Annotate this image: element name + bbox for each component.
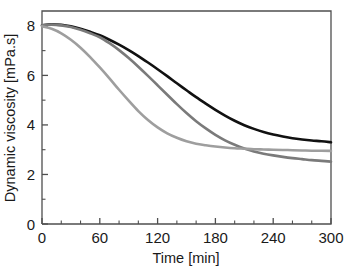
y-tick-label: 8 <box>27 17 35 34</box>
x-axis-title: Time [min] <box>152 250 219 266</box>
y-tick-label: 2 <box>27 166 35 183</box>
y-tick-label: 0 <box>27 216 35 233</box>
x-tick-label: 180 <box>203 229 228 246</box>
dynamic-viscosity-line-chart: 060120180240300 02468 Time [min] Dynamic… <box>0 0 348 273</box>
y-tick-label: 4 <box>27 116 35 133</box>
y-tick-label: 6 <box>27 67 35 84</box>
x-tick-label: 240 <box>261 229 286 246</box>
chart-figure: 060120180240300 02468 Time [min] Dynamic… <box>0 0 348 273</box>
x-tick-label: 120 <box>145 229 170 246</box>
y-axis-title: Dynamic viscosity [mPa.s] <box>2 34 18 202</box>
x-tick-label: 300 <box>318 229 343 246</box>
x-tick-label: 60 <box>91 229 108 246</box>
x-tick-label: 0 <box>38 229 46 246</box>
